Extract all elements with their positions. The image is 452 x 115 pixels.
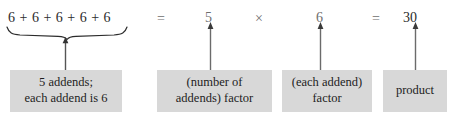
multiplication-sign: × (255, 12, 263, 26)
repeated-addition-figure: 6 + 6 + 6 + 6 + 6 6 + 6 + 6 + 6 + 6 = 5 … (0, 0, 452, 115)
arrow-up-icon-first-factor (206, 22, 215, 70)
equals-sign-first: = (157, 12, 165, 26)
equals-sign-second: = (372, 12, 380, 26)
sum-expression: 6 + 6 + 6 + 6 + 6 (8, 11, 111, 25)
caption-box-second-factor: (each addend) factor (282, 70, 372, 112)
arrow-up-icon-addends (61, 37, 70, 70)
caption-box-product: product (383, 70, 447, 112)
caption-box-first-factor: (number of addends) factor (157, 70, 272, 112)
arrow-up-icon-product (411, 22, 420, 70)
caption-first-factor-line2: addends) factor (176, 91, 253, 107)
caption-box-addends: 5 addends; each addend is 6 (10, 70, 122, 112)
caption-addends-line1: 5 addends; (39, 75, 93, 91)
caption-first-factor-line1: (number of (187, 75, 243, 91)
caption-second-factor-line2: factor (312, 91, 341, 107)
caption-second-factor-line1: (each addend) (292, 75, 362, 91)
caption-addends-line2: each addend is 6 (25, 91, 108, 107)
caption-product-line1: product (396, 83, 434, 99)
arrow-up-icon-second-factor (316, 22, 325, 70)
